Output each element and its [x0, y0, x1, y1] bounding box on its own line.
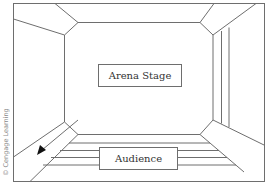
top-right-corner [200, 4, 256, 36]
right-steps [213, 28, 229, 128]
stage-label: Arena Stage [108, 70, 172, 81]
arena-stage-diagram: Arena Stage Audience © Cengage Learning [0, 0, 268, 187]
audience-label-box: Audience [100, 148, 178, 170]
bottom-right-corner [200, 120, 264, 172]
entrance-arrow-icon [37, 145, 46, 155]
copyright-credit: © Cengage Learning [2, 108, 10, 176]
audience-label: Audience [114, 153, 162, 164]
top-left-corner [14, 4, 79, 36]
stage-label-box: Arena Stage [99, 65, 182, 87]
